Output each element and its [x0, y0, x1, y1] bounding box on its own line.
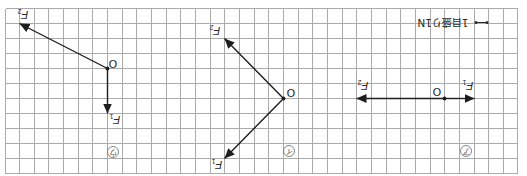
panel-label-circled: イ [284, 146, 295, 157]
scale-bar-end-dot [475, 21, 478, 24]
force-diagram-figure: 1目盛り1N O F2 F1 ウ O F2 [0, 0, 527, 176]
panel-label: イ [286, 147, 293, 156]
force-subscript: 1 [463, 80, 467, 87]
panel-label-circled: ウ [108, 147, 119, 158]
origin-label: O [108, 57, 117, 70]
panel-label: ア [463, 147, 470, 156]
origin-label: O [432, 85, 441, 98]
force-subscript: 1 [110, 114, 114, 121]
scale-note-label: 1目盛り1N [417, 17, 468, 29]
scale-bar-end-dot [486, 21, 489, 24]
force-subscript: 2 [18, 9, 22, 16]
panel-label: ウ [110, 148, 117, 157]
force-subscript: 2 [358, 80, 362, 87]
force-subscript: 2 [210, 25, 214, 32]
force-subscript: 1 [212, 159, 216, 166]
force-diagram-canvas: 1目盛り1N O F2 F1 ウ O F2 [0, 0, 527, 176]
origin-label: O [286, 86, 295, 99]
origin-point [282, 97, 286, 101]
origin-point [443, 97, 447, 101]
panel-label-circled: ア [461, 146, 472, 157]
